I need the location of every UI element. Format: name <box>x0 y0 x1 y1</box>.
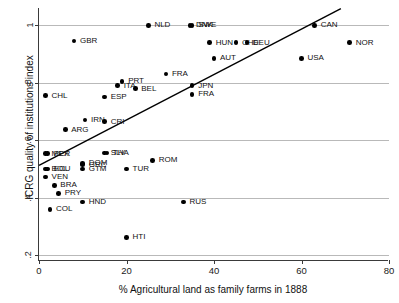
data-point-label: PRY <box>65 189 81 197</box>
data-point-label: TUR <box>133 165 149 173</box>
data-point[interactable] <box>212 56 217 61</box>
data-point-label: AUT <box>220 54 236 62</box>
data-point[interactable] <box>207 40 212 45</box>
y-tick-label: 1 <box>26 23 35 28</box>
x-tick-label: 20 <box>121 266 132 276</box>
data-point-label: RUS <box>189 198 206 206</box>
y-tick-label: .2 <box>25 251 34 259</box>
data-point[interactable] <box>52 183 57 188</box>
data-point-label: CAN <box>321 21 338 29</box>
data-point-label: PER <box>54 150 70 158</box>
data-point[interactable] <box>115 83 120 88</box>
data-point-label: NLD <box>154 21 170 29</box>
data-point-label: THA <box>113 149 129 157</box>
data-point-label: HND <box>89 198 106 206</box>
y-axis-title: ICRG quality of institutions index <box>24 48 35 208</box>
data-point[interactable] <box>124 235 129 240</box>
scatter-plot-figure: .2.4.6.81 020406080 NLDDNKSWECANGBRHUNCH… <box>0 0 399 303</box>
data-point-label: GTM <box>89 165 107 173</box>
x-tick-label: 60 <box>296 266 307 276</box>
x-axis-title: % Agricultural land as family farms in 1… <box>38 284 388 295</box>
data-point-label: CRI <box>111 118 125 126</box>
x-tick-label: 80 <box>384 266 395 276</box>
data-point[interactable] <box>124 167 129 172</box>
data-point-label: NOR <box>356 39 374 47</box>
data-point[interactable] <box>56 191 61 196</box>
data-point-label: BEL <box>141 85 156 93</box>
data-point-label: SWE <box>198 21 216 29</box>
data-point[interactable] <box>63 127 68 132</box>
regression-line <box>39 8 389 261</box>
data-point-label: ESP <box>111 93 127 101</box>
data-point-label: CHL <box>52 92 68 100</box>
data-point[interactable] <box>146 23 151 28</box>
plot-area: .2.4.6.81 020406080 NLDDNKSWECANGBRHUNCH… <box>38 8 388 261</box>
data-point-label: COL <box>56 205 72 213</box>
data-point[interactable] <box>190 92 195 97</box>
data-point-label: FRA <box>172 70 188 78</box>
data-point[interactable] <box>347 40 352 45</box>
data-point[interactable] <box>43 93 48 98</box>
data-point-label: HTI <box>133 233 146 241</box>
x-tick-mark <box>389 260 390 264</box>
x-tick-label: 40 <box>209 266 220 276</box>
data-point-label: HUN <box>216 39 233 47</box>
data-point[interactable] <box>245 40 250 45</box>
data-point-label: FRA <box>198 90 214 98</box>
data-point[interactable] <box>102 119 107 124</box>
data-point[interactable] <box>234 40 239 45</box>
data-point[interactable] <box>181 200 186 205</box>
data-point-label: DEU <box>253 39 270 47</box>
data-point[interactable] <box>150 158 155 163</box>
data-point-label: GBR <box>80 37 97 45</box>
data-point[interactable] <box>48 207 53 212</box>
data-point[interactable] <box>299 56 304 61</box>
data-point[interactable] <box>312 23 317 28</box>
data-point[interactable] <box>133 86 138 91</box>
data-point[interactable] <box>190 23 195 28</box>
data-point-label: ROM <box>159 156 178 164</box>
x-tick-label: 0 <box>36 266 41 276</box>
data-point-label: ARG <box>71 126 88 134</box>
data-point-label: USA <box>308 54 324 62</box>
